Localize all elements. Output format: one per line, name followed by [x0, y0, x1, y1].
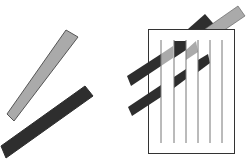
- diagram-canvas: [0, 0, 246, 162]
